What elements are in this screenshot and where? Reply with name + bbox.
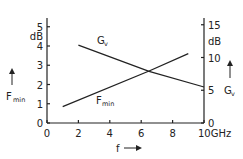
x-tick-label: 8	[169, 128, 175, 139]
right-tick-label: 0	[208, 118, 214, 129]
x-tick-label: 10GHz	[198, 128, 231, 139]
left-tick-label: 3	[37, 60, 43, 71]
x-axis-title: f	[116, 143, 120, 154]
left-tick-label: 1	[37, 99, 43, 110]
left-axis-title-sub: min	[13, 96, 25, 104]
x-tick-label: 4	[107, 128, 113, 139]
series-line-gv	[78, 45, 204, 87]
right-unit-label: dB	[208, 36, 221, 47]
left-unit-label: dB	[30, 31, 43, 42]
right-tick-label: 10	[208, 53, 221, 64]
left-tick-label: 4	[37, 41, 43, 52]
series-label-gv-sub: v	[104, 40, 108, 48]
series-label-fmin-sub: min	[102, 100, 114, 108]
left-tick-label: 0	[37, 118, 43, 129]
right-axis-title-sub: v	[231, 90, 235, 98]
left-tick-label: 2	[37, 80, 43, 91]
x-tick-label: 6	[138, 128, 144, 139]
chart: 0246810GHz012345dB051015dBFminGvfGvFmin	[0, 0, 243, 159]
right-tick-label: 5	[208, 85, 214, 96]
x-arrow-head-icon	[136, 145, 142, 151]
left-arrow-head-icon	[9, 68, 15, 74]
right-arrow-head-icon	[227, 60, 233, 66]
labels: 0246810GHz012345dB051015dBFminGvfGvFmin	[6, 20, 235, 154]
series-line-fmin	[63, 54, 189, 107]
right-tick-label: 15	[208, 20, 221, 31]
x-tick-label: 0	[44, 128, 50, 139]
left-axis-title: F	[6, 91, 12, 102]
series-lines	[63, 45, 204, 107]
axes	[47, 18, 204, 123]
x-tick-label: 2	[75, 128, 81, 139]
